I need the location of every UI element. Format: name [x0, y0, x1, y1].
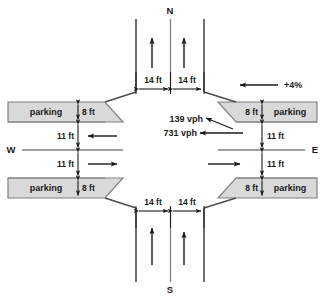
compass-label-east: E	[312, 145, 318, 155]
parking-label-nw: parking	[30, 108, 63, 117]
flow-arrows	[88, 38, 240, 265]
dim-label-north-left: 14 ft	[144, 76, 161, 85]
intersection-diagram: N S W E 14 ft 14 ft 14 ft 14 ft parking …	[0, 0, 325, 300]
parking-width-sw: 8 ft	[82, 184, 95, 193]
dim-label-east-lower: 11 ft	[267, 160, 284, 169]
diagram-canvas	[0, 0, 325, 300]
volume-label-731: 731 vph	[163, 129, 197, 138]
compass-label-south: S	[167, 285, 173, 295]
compass-label-north: N	[167, 6, 174, 16]
corner-tapers	[105, 92, 236, 208]
dim-label-east-upper: 11 ft	[267, 132, 284, 141]
centerlines	[22, 19, 305, 282]
parking-width-ne: 8 ft	[245, 108, 258, 117]
parking-label-se: parking	[274, 184, 307, 193]
parking-label-ne: parking	[274, 108, 307, 117]
taper-sw	[105, 198, 136, 208]
taper-nw	[105, 92, 136, 102]
parking-band-nw	[8, 102, 123, 122]
taper-ne	[204, 92, 236, 102]
dimension-south	[136, 206, 204, 228]
volume-label-139: 139 vph	[169, 115, 203, 124]
volume-arrow-139	[206, 118, 233, 129]
parking-label-sw: parking	[30, 184, 63, 193]
parking-width-se: 8 ft	[245, 184, 258, 193]
dim-label-south-right: 14 ft	[178, 198, 195, 207]
dim-label-south-left: 14 ft	[144, 198, 161, 207]
taper-se	[204, 198, 236, 208]
compass-label-west: W	[7, 145, 16, 155]
parking-width-nw: 8 ft	[82, 108, 95, 117]
dim-label-west-upper: 11 ft	[57, 132, 74, 141]
dim-label-west-lower: 11 ft	[57, 160, 74, 169]
dim-label-north-right: 14 ft	[178, 76, 195, 85]
grade-label: +4%	[284, 81, 302, 90]
parking-band-sw	[8, 178, 123, 198]
